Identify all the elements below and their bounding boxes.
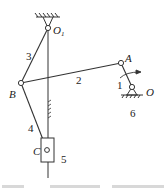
link-2 [21,63,121,83]
label-o1: O1 [53,24,64,38]
joint-b [18,80,23,85]
label-a: A [124,52,132,64]
label-link2: 2 [76,74,82,86]
label-link1: 1 [117,79,123,91]
label-link5: 5 [61,153,67,165]
mechanism-diagram: O1 A B O C 1 2 3 4 5 6 [0,0,166,191]
label-c: C [33,145,41,157]
rotation-arrow-icon [120,70,141,78]
label-o: O [146,86,154,98]
label-link3: 3 [26,50,32,62]
caption-cropped [2,185,164,188]
joint-o [129,84,134,89]
label-link6: 6 [130,107,136,119]
joint-c [45,148,50,153]
label-link4: 4 [28,122,34,134]
joint-a [118,60,123,65]
joint-o1 [45,25,50,30]
label-b: B [9,88,16,100]
link-1 [121,63,132,87]
